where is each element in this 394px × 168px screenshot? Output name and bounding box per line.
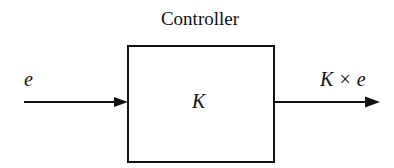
output-label: K × e — [320, 68, 366, 91]
controller-title: Controller — [0, 8, 394, 30]
block-gain-label: K — [192, 90, 205, 113]
input-arrowhead-icon — [114, 97, 128, 107]
output-arrowhead-icon — [365, 97, 380, 108]
input-label: e — [24, 68, 33, 91]
